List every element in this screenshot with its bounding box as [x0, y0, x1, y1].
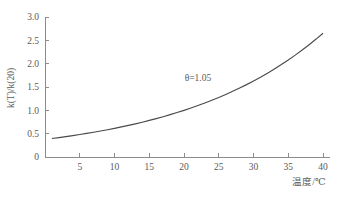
data-series: [52, 33, 323, 138]
curve-path: [52, 33, 323, 138]
x-tick-label: 20: [179, 162, 189, 172]
x-tick-label: 40: [318, 162, 328, 172]
y-tick-label: 3.0: [27, 12, 39, 22]
y-tick-label: 1.5: [27, 82, 39, 92]
y-tick-label: 0: [34, 152, 39, 162]
x-tick-label: 10: [110, 162, 120, 172]
tick-marks: [45, 17, 323, 157]
y-tick-label: 1.0: [27, 106, 39, 116]
x-tick-label: 5: [77, 162, 82, 172]
x-tick-label: 30: [249, 162, 259, 172]
y-tick-label: 0.5: [27, 129, 39, 139]
y-tick-label: 2.0: [27, 59, 39, 69]
x-axis-title: 温度/℃: [292, 176, 326, 187]
x-tick-label: 25: [214, 162, 224, 172]
x-tick-label: 15: [145, 162, 155, 172]
y-tick-label: 2.5: [27, 36, 39, 46]
x-tick-label: 35: [284, 162, 294, 172]
axes: [45, 17, 330, 157]
chart-canvas: 00.51.01.52.02.53.0510152025303540 k(T)/…: [0, 0, 352, 197]
tick-labels: 00.51.01.52.02.53.0510152025303540: [27, 12, 328, 172]
curve-annotation-theta: θ=1.05: [185, 73, 212, 83]
chart-figure: 00.51.01.52.02.53.0510152025303540 k(T)/…: [0, 0, 352, 197]
y-axis-title: k(T)/k(20): [6, 68, 17, 108]
